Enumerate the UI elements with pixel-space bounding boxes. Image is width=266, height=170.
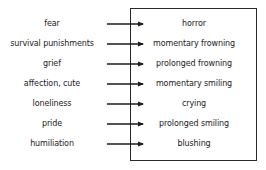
expression-label: momentary frowning xyxy=(153,39,235,49)
expression-label: horror xyxy=(182,19,206,29)
expression-label: momentary smiling xyxy=(156,79,232,89)
expression-label: prolonged smiling xyxy=(159,119,229,129)
cause-label: humiliation xyxy=(30,139,74,149)
cause-label: affection, cute xyxy=(24,79,80,89)
cause-label: loneliness xyxy=(33,99,72,109)
cause-label: fear xyxy=(44,19,60,29)
cause-label: grief xyxy=(43,59,61,69)
cause-label: survival punishments xyxy=(10,39,94,49)
diagram: fearsurvival punishmentsgriefaffection, … xyxy=(0,0,266,170)
expression-label: crying xyxy=(182,99,206,109)
cause-label: pride xyxy=(42,119,62,129)
expression-label: blushing xyxy=(177,139,210,149)
expression-label: prolonged frowning xyxy=(156,59,232,69)
